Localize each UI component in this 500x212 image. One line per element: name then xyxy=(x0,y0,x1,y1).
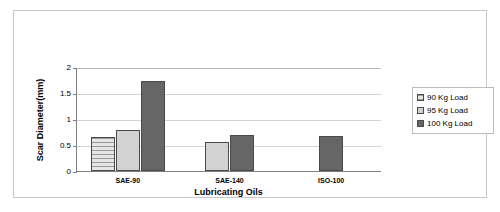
plot-area: 00.511.52 SAE-90SAE-140ISO-100 xyxy=(76,68,381,172)
bar[interactable] xyxy=(205,142,229,171)
legend-item[interactable]: 90 Kg Load xyxy=(417,91,490,104)
bar[interactable] xyxy=(230,135,254,171)
bar[interactable] xyxy=(319,136,343,171)
legend-item[interactable]: 95 Kg Load xyxy=(417,104,490,117)
legend-item-label: 90 Kg Load xyxy=(427,94,468,102)
bar[interactable] xyxy=(116,130,140,171)
chart-legend: 90 Kg Load95 Kg Load100 Kg Load xyxy=(412,87,494,134)
bar[interactable] xyxy=(141,81,165,171)
x-axis-category-label: SAE-90 xyxy=(116,177,141,184)
y-axis-tick-label: 2 xyxy=(67,64,71,72)
legend-item-label: 100 Kg Load xyxy=(427,120,472,128)
legend-item[interactable]: 100 Kg Load xyxy=(417,117,490,130)
y-axis-title-label: Scar Diameter(mm) xyxy=(35,79,45,162)
bar-group: ISO-100 xyxy=(280,68,382,171)
legend-swatch-icon xyxy=(417,94,424,101)
y-axis-tick-label: 0.5 xyxy=(60,142,71,150)
bar-group: SAE-140 xyxy=(179,68,281,171)
legend-item-label: 95 Kg Load xyxy=(427,107,468,115)
y-axis-tick-label: 1 xyxy=(67,116,71,124)
bar[interactable] xyxy=(91,137,115,171)
y-axis-tick-label: 0 xyxy=(67,168,71,176)
y-axis-tick-label: 1.5 xyxy=(60,90,71,98)
x-axis-category-label: SAE-140 xyxy=(215,177,243,184)
x-axis-title: Lubricating Oils xyxy=(76,187,381,197)
bar-group: SAE-90 xyxy=(77,68,179,171)
x-axis-title-label: Lubricating Oils xyxy=(194,187,263,197)
legend-swatch-icon xyxy=(417,107,424,114)
legend-swatch-icon xyxy=(417,120,424,127)
x-axis-category-label: ISO-100 xyxy=(318,177,344,184)
y-axis-tick-mark xyxy=(73,172,77,173)
chart-frame: Scar Diameter(mm) 00.511.52 SAE-90SAE-14… xyxy=(13,10,487,198)
y-axis-title: Scar Diameter(mm) xyxy=(34,68,46,172)
